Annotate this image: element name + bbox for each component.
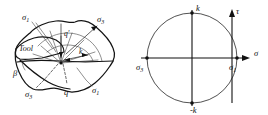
label-q-prime: q' [64, 29, 70, 38]
sigma-axis-arrowhead [242, 55, 250, 61]
label-sigma1-top: σ1 [22, 12, 29, 23]
label-sigma-axis: σ [254, 48, 259, 58]
q-leader [63, 64, 67, 84]
slip-line-field-svg: σ1 σ3 Tool q' k β σ3 q σ1 [0, 0, 134, 115]
slip-line-field-panel: σ1 σ3 Tool q' k β σ3 q σ1 [0, 0, 134, 115]
label-tau-axis: τ [236, 6, 240, 16]
label-sigma3-top: σ3 [97, 14, 104, 25]
label-k-bottom: -k [190, 105, 197, 115]
point-sigma1 [235, 56, 239, 60]
label-beta: β [12, 68, 18, 78]
tau-axis-arrowhead [229, 9, 235, 17]
point-k-top [190, 11, 194, 15]
sigma1-top-leader [32, 22, 52, 48]
tool-tip-point [59, 61, 62, 64]
label-sigma3-bottom: σ3 [25, 89, 32, 100]
mohr-circle-panel: k -k σ3 σ1 τ σ [134, 0, 268, 115]
point-sigma3 [145, 56, 149, 60]
mohr-circle-svg: k -k σ3 σ1 τ σ [134, 0, 268, 115]
k-shear-arrows [64, 53, 88, 62]
figure-root: σ1 σ3 Tool q' k β σ3 q σ1 [0, 0, 268, 115]
label-sigma1-right: σ1 [229, 62, 236, 73]
label-tool: Tool [19, 44, 34, 53]
label-sigma3-left: σ3 [136, 62, 143, 73]
label-k-top: k [196, 3, 200, 13]
label-sigma1-bottom: σ1 [92, 85, 99, 96]
sigma1-bottom-leader [77, 68, 92, 86]
